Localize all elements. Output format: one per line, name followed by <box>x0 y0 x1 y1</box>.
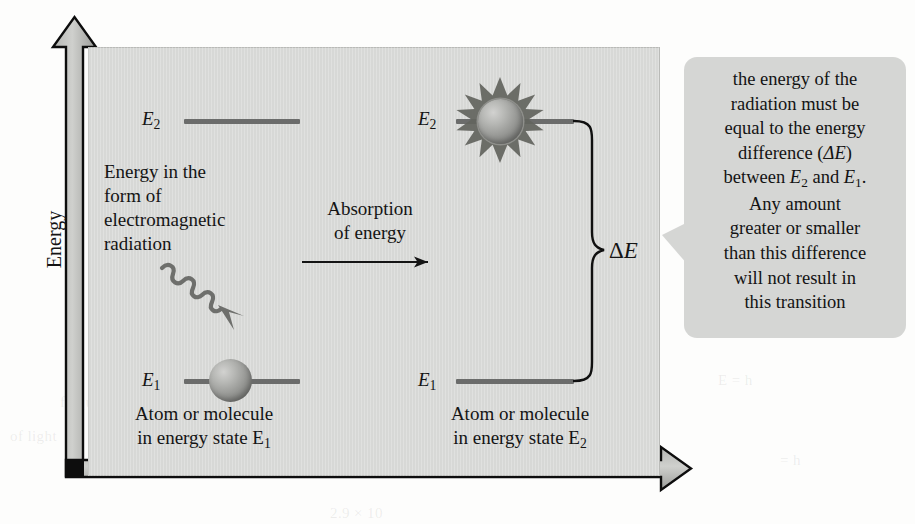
right-caption-line-1: Atom or molecule <box>415 402 625 426</box>
callout-line-8: than this difference <box>693 241 897 266</box>
callout-line-5: between E2 and E1. <box>693 165 897 191</box>
callout-line-1: the energy of the <box>693 67 897 92</box>
callout-line-4: difference (ΔE) <box>693 141 897 166</box>
callout-box: the energy of the radiation must be equa… <box>684 57 906 338</box>
figure-canvas: of radiation the energy E = h frequency.… <box>0 0 915 524</box>
callout-line-2: radiation must be <box>693 92 897 117</box>
callout-line-7: greater or smaller <box>693 216 897 241</box>
right-caption-line-2: in energy state E2 <box>415 426 625 452</box>
callout-line-9: will not result in <box>693 266 897 291</box>
right-caption-block: Atom or molecule in energy state E2 <box>415 402 625 452</box>
delta-e-label: ΔE <box>609 237 638 265</box>
callout-line-3: equal to the energy <box>693 116 897 141</box>
callout-line-6: Any amount <box>693 192 897 217</box>
callout-line-10: this transition <box>693 290 897 315</box>
